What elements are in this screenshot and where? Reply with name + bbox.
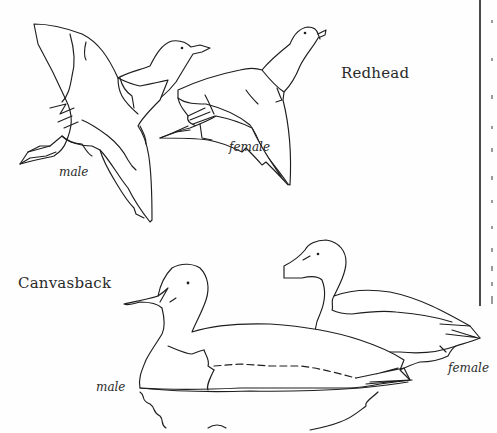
illustration-page: Redhead female male Canvasback male fema… <box>0 0 497 433</box>
redhead-male-drawing <box>20 24 210 222</box>
bleed-mark <box>491 296 493 304</box>
bleed-mark <box>491 95 493 99</box>
canvasback-male-drawing <box>124 264 412 430</box>
section-title-canvasback: Canvasback <box>18 274 111 292</box>
label-canvasback-female: female <box>448 361 489 375</box>
label-redhead-male: male <box>59 165 88 179</box>
bleed-mark <box>491 226 493 229</box>
bleed-mark <box>491 266 493 271</box>
duck-line-art <box>0 0 497 433</box>
section-title-redhead: Redhead <box>341 64 409 82</box>
bleed-mark <box>491 282 493 286</box>
bleed-mark <box>491 248 493 252</box>
bleed-mark <box>491 148 493 152</box>
bleed-mark <box>491 200 493 203</box>
column-divider <box>479 0 481 306</box>
label-canvasback-male: male <box>96 380 125 394</box>
bleed-mark <box>491 126 493 129</box>
bleed-mark <box>491 176 493 180</box>
bleed-mark <box>491 58 493 61</box>
bleed-mark <box>491 20 493 23</box>
label-redhead-female: female <box>229 140 270 154</box>
